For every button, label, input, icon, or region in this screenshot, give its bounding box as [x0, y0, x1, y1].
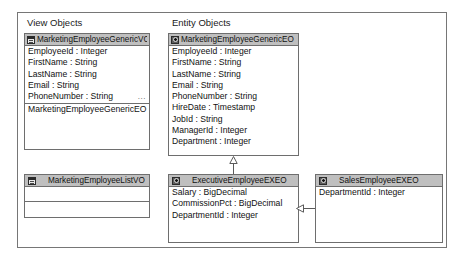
uml-attribute-row: ManagerId : Integer: [169, 125, 298, 136]
diagram-canvas: View Objects Entity Objects MarketingEmp…: [0, 0, 466, 264]
generalization-arrowhead-up[interactable]: [229, 156, 238, 164]
uml-attributes-compartment: EmployeeId : Integer FirstName : String …: [169, 46, 298, 156]
uml-attribute-row: DepartmentId : Integer: [169, 210, 298, 221]
generalization-line-sales-to-exec[interactable]: [303, 208, 315, 209]
group-label-view-objects: View Objects: [27, 17, 82, 28]
view-object-icon: [27, 36, 35, 44]
uml-class-marketing-employee-generic-vo[interactable]: MarketingEmployeeGenericVO EmployeeId : …: [24, 33, 150, 150]
uml-attribute-row: EmployeeId : Integer: [25, 46, 149, 57]
uml-class-header[interactable]: MarketingEmployeeGenericVO: [25, 34, 149, 46]
uml-class-header[interactable]: MarketingEmployeeListVO: [25, 175, 149, 187]
uml-attribute-row: LastName : String: [169, 69, 298, 80]
uml-attribute-row: PhoneNumber : String: [169, 91, 298, 102]
uml-nested-row: MarketingEmployeeGenericEO: [25, 104, 149, 115]
uml-class-header[interactable]: ExecutiveEmployeeEXEO: [169, 175, 298, 187]
uml-class-executive-employee-exeo[interactable]: ExecutiveEmployeeEXEO Salary : BigDecima…: [168, 174, 299, 243]
uml-nested-compartment: [25, 201, 149, 217]
uml-class-title: MarketingEmployeeListVO: [48, 175, 145, 186]
uml-attribute-row: Email : String: [169, 80, 298, 91]
uml-class-marketing-employee-generic-eo[interactable]: MarketingEmployeeGenericEO EmployeeId : …: [168, 33, 299, 156]
uml-attributes-compartment: DepartmentId : Integer: [316, 187, 442, 243]
group-label-entity-objects: Entity Objects: [172, 17, 231, 28]
attributes-overflow-ellipsis[interactable]: ...: [138, 91, 146, 102]
uml-attributes-compartment: Salary : BigDecimal CommissionPct : BigD…: [169, 187, 298, 243]
entity-object-icon: [172, 177, 180, 185]
uml-attribute-row: HireDate : Timestamp: [169, 102, 298, 113]
view-object-icon: [28, 177, 36, 185]
uml-class-header[interactable]: MarketingEmployeeGenericEO: [169, 34, 298, 46]
generalization-line-exec-to-generic[interactable]: [233, 163, 234, 174]
entity-object-icon: [171, 36, 179, 44]
uml-attribute-row: Salary : BigDecimal: [169, 187, 298, 198]
uml-attribute-row: CommissionPct : BigDecimal: [169, 198, 298, 209]
uml-attribute-row: Email : String: [25, 80, 149, 91]
uml-class-sales-employee-exeo[interactable]: SalesEmployeeEXEO DepartmentId : Integer: [315, 174, 443, 243]
uml-attribute-row: EmployeeId : Integer: [169, 46, 298, 57]
uml-class-title: MarketingEmployeeGenericVO: [37, 34, 147, 45]
generalization-arrowhead-left[interactable]: [296, 204, 304, 213]
uml-class-header[interactable]: SalesEmployeeEXEO: [316, 175, 442, 187]
uml-class-title: ExecutiveEmployeeEXEO: [192, 175, 287, 186]
uml-attribute-row: FirstName : String: [25, 57, 149, 68]
uml-attribute-row: PhoneNumber : String: [25, 91, 149, 102]
uml-attribute-row: LastName : String: [25, 69, 149, 80]
uml-attributes-compartment: EmployeeId : Integer FirstName : String …: [25, 46, 149, 103]
entity-object-icon: [319, 177, 327, 185]
uml-attributes-compartment: [25, 187, 149, 201]
uml-class-title: MarketingEmployeeGenericEO: [181, 34, 294, 45]
uml-class-marketing-employee-list-vo[interactable]: MarketingEmployeeListVO: [24, 174, 150, 218]
uml-class-title: SalesEmployeeEXEO: [339, 175, 419, 186]
uml-attribute-row: DepartmentId : Integer: [316, 187, 442, 198]
uml-attribute-row: Department : Integer: [169, 136, 298, 147]
uml-nested-compartment: MarketingEmployeeGenericEO: [25, 103, 149, 149]
uml-attribute-row: FirstName : String: [169, 57, 298, 68]
uml-attribute-row: JobId : String: [169, 114, 298, 125]
